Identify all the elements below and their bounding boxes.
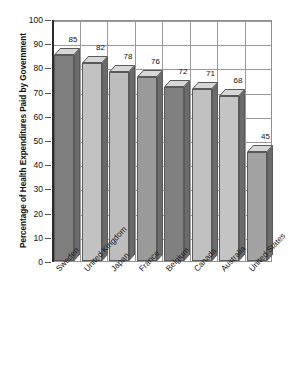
bar-front-face bbox=[82, 63, 102, 261]
y-axis-tick-label: 90 bbox=[17, 40, 43, 49]
bar-value-label: 82 bbox=[84, 44, 118, 52]
y-axis-tick-label: 80 bbox=[17, 64, 43, 73]
bar: 82 bbox=[82, 63, 102, 261]
y-axis-line bbox=[52, 20, 54, 262]
bar-side-face bbox=[102, 56, 108, 261]
bar-value-label: 68 bbox=[221, 77, 255, 85]
bar-front-face bbox=[109, 72, 129, 261]
y-axis-tick bbox=[45, 189, 51, 190]
y-axis-tick-label: 70 bbox=[17, 89, 43, 98]
bar-front-face bbox=[192, 89, 212, 261]
bar: 76 bbox=[137, 77, 157, 261]
bar: 72 bbox=[164, 87, 184, 261]
bar-front-face bbox=[164, 87, 184, 261]
y-axis-tick bbox=[45, 93, 51, 94]
y-axis-tick-label: 20 bbox=[17, 210, 43, 219]
bar: 85 bbox=[54, 55, 74, 261]
y-axis-tick bbox=[45, 117, 51, 118]
y-axis-tick-label: 30 bbox=[17, 185, 43, 194]
bar-side-face bbox=[212, 83, 218, 261]
bar-value-label: 45 bbox=[249, 133, 283, 141]
bar-value-label: 76 bbox=[139, 58, 173, 66]
y-axis-tick-label: 10 bbox=[17, 234, 43, 243]
bar-side-face bbox=[267, 145, 273, 261]
y-axis-tick bbox=[45, 141, 51, 142]
bar-side-face bbox=[157, 70, 163, 261]
bar-side-face bbox=[74, 49, 80, 261]
y-axis-tick-label: 40 bbox=[17, 161, 43, 170]
y-axis-tick bbox=[45, 262, 51, 263]
y-axis-tick bbox=[45, 44, 51, 45]
bar: 71 bbox=[192, 89, 212, 261]
y-axis-tick bbox=[45, 165, 51, 166]
bar: 78 bbox=[109, 72, 129, 261]
plot-area: 8582787672716845 bbox=[52, 20, 272, 262]
bar-front-face bbox=[247, 152, 267, 261]
y-axis-tick-label: 100 bbox=[17, 16, 43, 25]
bar: 68 bbox=[219, 96, 239, 261]
bar: 45 bbox=[247, 152, 267, 261]
bar-front-face bbox=[137, 77, 157, 261]
bar-side-face bbox=[129, 66, 135, 261]
bar-front-face bbox=[219, 96, 239, 261]
bar-side-face bbox=[239, 90, 245, 261]
bar-chart: Percentage of Health Expenditures Paid b… bbox=[0, 0, 291, 366]
y-axis-tick-label: 0 bbox=[17, 258, 43, 267]
y-axis-tick-label: 60 bbox=[17, 113, 43, 122]
y-axis-tick bbox=[45, 68, 51, 69]
y-axis-tick bbox=[45, 214, 51, 215]
y-axis-tick-label: 50 bbox=[17, 137, 43, 146]
y-axis-tick bbox=[45, 20, 51, 21]
bar-front-face bbox=[54, 55, 74, 261]
y-axis-tick bbox=[45, 238, 51, 239]
bar-side-face bbox=[184, 80, 190, 261]
